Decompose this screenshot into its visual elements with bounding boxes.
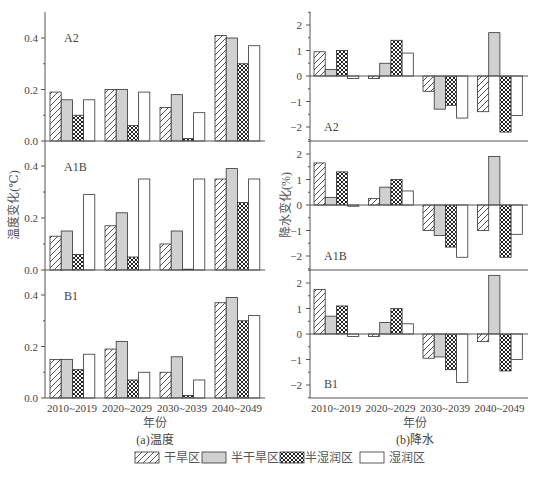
semi-humid-bar [127,380,138,398]
humid-bar [457,76,468,118]
humid-bar [139,179,150,270]
semi-arid-bar [325,197,336,205]
humid-bar [194,179,205,270]
scenario-label: A1B [64,160,87,174]
humid-bar [84,354,95,398]
arid-bar [160,244,171,270]
semi-humid-bar [336,306,347,334]
x-tick-label: 2040~2049 [212,402,262,414]
humid-swatch [360,452,384,463]
arid-bar [423,76,434,91]
semi-arid-bar [116,90,127,142]
precipitation-subplot-b1: −2−1012B1 [290,270,528,398]
semi-humid-bar [500,205,511,257]
x-tick-label: 2010~2019 [47,402,97,414]
humid-bar [402,191,413,205]
semi-humid-bar [127,257,138,270]
precipitation-subplot-a1b: −2−1012A1B [290,141,528,270]
humid-bar [249,316,260,398]
legend-item: 半湿润区 [280,450,353,465]
arid-bar [314,289,325,334]
y-axis-title: 温度变化(℃) [6,170,21,239]
humid-bar [249,46,260,141]
semi-arid-bar [489,33,500,76]
y-tick-label: −1 [290,354,302,366]
semi-arid-bar [171,231,182,270]
temperature-subplot-b1: 0.00.20.4B1 [24,270,265,404]
y-axis-title: 降水变化(%) [278,172,293,238]
y-tick-label: −2 [290,121,302,133]
arid-bar [215,179,226,270]
semi-humid-bar [391,309,402,335]
arid-bar [478,334,489,342]
humid-bar [457,334,468,382]
x-tick-label: 2030~2039 [157,402,207,414]
humid-bar [194,113,205,141]
y-tick-label: 0.2 [24,212,38,224]
arid-bar [160,108,171,141]
humid-bar [139,372,150,398]
arid-bar [105,226,116,270]
scenario-label: A1B [324,249,347,263]
y-tick-label: 0.2 [24,84,38,96]
y-tick-label: 0.0 [24,264,38,276]
semi-arid-bar [434,205,445,236]
precipitation-subplot-a2: −2−1012A2 [290,12,528,141]
semi-arid-bar [61,359,72,398]
humid-bar [84,195,95,270]
humid-bar [457,205,468,257]
legend-item: 半干旱区 [202,451,279,465]
subfigure-caption: (a)温度 [136,432,173,447]
semi-arid-bar [380,187,391,205]
semi-arid-bar [380,323,391,334]
scenario-label: B1 [64,289,78,303]
x-tick-label: 2030~2039 [420,402,470,414]
humid-bar [511,334,522,360]
semi-humid-bar [445,334,456,370]
arid-bar [478,205,489,231]
y-tick-label: 0.0 [24,392,38,404]
arid-bar [160,372,171,398]
y-tick-label: 0.4 [24,289,38,301]
semi-humid-bar [72,370,83,398]
y-tick-label: 0 [297,70,303,82]
y-tick-label: 0.4 [24,32,38,44]
y-tick-label: 1 [297,303,303,315]
y-tick-label: −2 [290,250,302,262]
temperature-chart: 0.00.20.4A20.00.20.4A1B0.00.20.4B12010~2… [6,12,265,447]
humid-bar [511,205,522,234]
y-tick-label: 0.0 [24,135,38,147]
semi-arid-bar [171,357,182,398]
humid-bar [402,53,413,76]
semi-arid-bar [325,316,336,334]
subfigure-caption: (b)降水 [396,433,434,447]
semi-arid-bar [226,169,237,270]
x-tick-label: 2040~2049 [475,402,525,414]
semi-humid-bar [336,172,347,205]
y-tick-label: 2 [297,148,303,160]
semi-arid-bar [61,231,72,270]
semi-arid-bar [116,213,127,270]
arid-swatch [135,452,159,463]
semi-arid-swatch [202,452,226,463]
legend: 干旱区半干旱区半湿润区湿润区 [135,450,425,465]
arid-bar [423,334,434,358]
arid-bar [50,92,61,141]
semi-humid-bar [391,40,402,76]
semi-humid-bar [72,254,83,270]
arid-bar [423,205,434,231]
semi-humid-swatch [280,452,304,463]
y-tick-label: 0.2 [24,341,38,353]
semi-arid-bar [380,63,391,76]
semi-humid-bar [237,202,248,270]
semi-arid-bar [226,298,237,398]
legend-label: 半干旱区 [231,451,279,465]
y-tick-label: 1 [297,45,303,57]
semi-arid-bar [116,341,127,398]
semi-arid-bar [434,76,445,109]
semi-arid-bar [226,38,237,141]
semi-humid-bar [237,64,248,141]
semi-humid-bar [72,115,83,141]
semi-arid-bar [61,100,72,141]
y-tick-label: 0.4 [24,160,38,172]
